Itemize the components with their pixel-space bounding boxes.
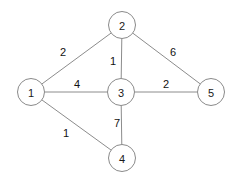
node-label-3: 3: [118, 87, 124, 99]
graph-canvas: 12345 2411672: [0, 0, 239, 183]
graph-node-3[interactable]: 3: [108, 79, 135, 106]
node-label-2: 2: [119, 20, 125, 32]
graph-edge-2-5: [133, 33, 200, 84]
graph-edge-1-2: [42, 33, 111, 84]
edge-weight-label-1-4: 1: [63, 127, 69, 139]
edge-weight-label-3-5: 2: [163, 78, 169, 90]
graph-node-4[interactable]: 4: [109, 145, 136, 172]
graph-edge-3-4: [121, 105, 122, 144]
graph-figure: 12345 2411672: [0, 0, 239, 183]
node-label-1: 1: [28, 87, 34, 99]
node-label-4: 4: [119, 153, 125, 165]
edge-weight-label-3-4: 7: [114, 117, 120, 129]
graph-edge-2-3: [121, 38, 122, 78]
graph-node-5[interactable]: 5: [198, 79, 225, 106]
edge-weight-label-1-2: 2: [60, 46, 66, 58]
graph-node-2[interactable]: 2: [109, 12, 136, 39]
edge-weight-label-1-3: 4: [74, 78, 80, 90]
graph-node-1[interactable]: 1: [18, 79, 45, 106]
edge-weight-label-2-5: 6: [170, 46, 176, 58]
node-label-5: 5: [208, 87, 214, 99]
graph-edge-1-4: [42, 100, 111, 150]
edge-weight-label-2-3: 1: [110, 55, 116, 67]
